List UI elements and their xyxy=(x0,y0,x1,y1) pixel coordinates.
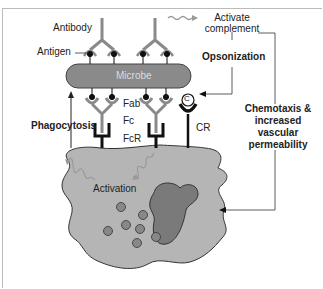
fab-label: Fab xyxy=(123,98,140,109)
opsonization-label: Opsonization xyxy=(202,51,265,62)
activation-label: Activation xyxy=(93,183,136,194)
cr-label: CR xyxy=(196,122,210,133)
antigen-label: Antigen xyxy=(37,46,71,57)
phagocytosis-label: Phagocytosis xyxy=(31,120,96,131)
fcr-label: FcR xyxy=(123,133,141,144)
complement-wavy-arrow xyxy=(168,17,192,20)
complement-c-label: C xyxy=(184,94,190,103)
top-antibodies xyxy=(90,18,167,50)
top-antigens xyxy=(87,51,169,64)
fc-label: Fc xyxy=(123,115,134,126)
activate-complement-label: Activate complement xyxy=(200,12,264,34)
chemotaxis-label: Chemotaxis & increased vascular permeabi… xyxy=(238,103,318,151)
antibody-label: Antibody xyxy=(53,22,92,33)
phagocyte-cell xyxy=(62,145,227,268)
microbe-label: Microbe xyxy=(116,70,152,81)
top-antigen-binding xyxy=(84,51,173,56)
